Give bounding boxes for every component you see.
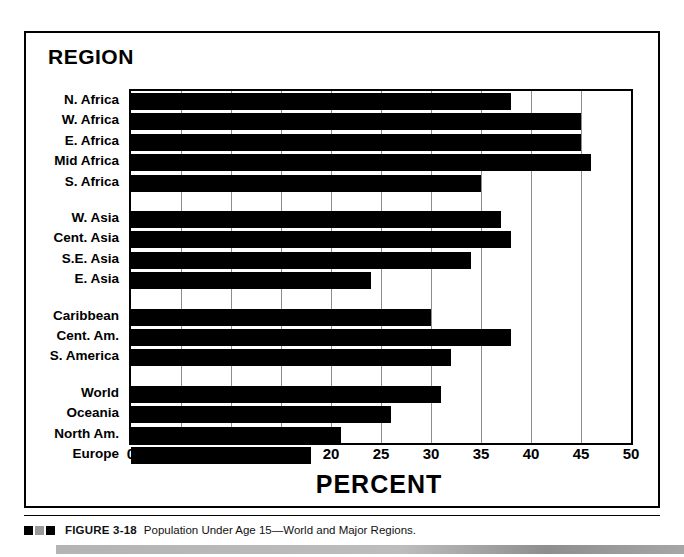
y-tick-europe: Europe xyxy=(72,445,119,462)
x-tick-15: 15 xyxy=(273,445,290,462)
x-tick-20: 20 xyxy=(323,445,340,462)
caption-square-marks-icon xyxy=(24,526,55,535)
y-tick-s-e-asia: S.E. Asia xyxy=(62,250,119,267)
bar-e-asia xyxy=(131,272,371,289)
bar-w-asia xyxy=(131,211,501,228)
figure-caption: FIGURE 3-18 Population Under Age 15—Worl… xyxy=(24,520,660,540)
x-tick-10: 10 xyxy=(223,445,240,462)
bar-s-africa xyxy=(131,175,481,192)
y-tick-w-asia: W. Asia xyxy=(71,209,119,226)
y-tick-world: World xyxy=(81,384,119,401)
x-tick-30: 30 xyxy=(423,445,440,462)
y-tick-s-america: S. America xyxy=(50,347,119,364)
y-tick-cent-am: Cent. Am. xyxy=(56,327,119,344)
bar-row xyxy=(131,386,631,403)
bar-n-africa xyxy=(131,93,511,110)
bar-s-america xyxy=(131,349,451,366)
x-tick-50: 50 xyxy=(623,445,640,462)
x-tick-35: 35 xyxy=(473,445,490,462)
bar-caribbean xyxy=(131,309,431,326)
bar-row xyxy=(131,231,631,248)
figure-frame: REGION N. AfricaW. AfricaE. AfricaMid Af… xyxy=(24,31,660,508)
bar-row xyxy=(131,427,631,444)
bar-s-e-asia xyxy=(131,252,471,269)
page-bottom-decoration xyxy=(56,545,684,554)
x-tick-45: 45 xyxy=(573,445,590,462)
x-tick-5: 5 xyxy=(177,445,185,462)
y-tick-n-africa: N. Africa xyxy=(64,91,119,108)
bar-row xyxy=(131,113,631,130)
chart-plot-wrapper: N. AfricaW. AfricaE. AfricaMid AfricaS. … xyxy=(26,33,662,510)
y-tick-north-am: North Am. xyxy=(54,425,119,442)
bar-world xyxy=(131,386,441,403)
y-tick-e-asia: E. Asia xyxy=(74,270,119,287)
y-tick-w-africa: W. Africa xyxy=(62,111,119,128)
y-tick-caribbean: Caribbean xyxy=(53,307,119,324)
bar-cent-am xyxy=(131,329,511,346)
x-tick-40: 40 xyxy=(523,445,540,462)
bar-e-africa xyxy=(131,134,581,151)
bar-cent-asia xyxy=(131,231,511,248)
caption-figure-number: FIGURE 3-18 xyxy=(65,524,137,536)
bar-row xyxy=(131,272,631,289)
bar-row xyxy=(131,309,631,326)
y-tick-s-africa: S. Africa xyxy=(65,173,119,190)
bar-row xyxy=(131,154,631,171)
bar-row xyxy=(131,252,631,269)
bar-row xyxy=(131,134,631,151)
bar-row xyxy=(131,349,631,366)
bar-row xyxy=(131,329,631,346)
bar-north-am xyxy=(131,427,341,444)
figure-page: REGION N. AfricaW. AfricaE. AfricaMid Af… xyxy=(0,0,684,557)
caption-divider xyxy=(24,515,660,516)
y-tick-mid-africa: Mid Africa xyxy=(54,152,119,169)
x-tick-0: 0 xyxy=(127,445,135,462)
caption-description: Population Under Age 15—World and Major … xyxy=(144,524,416,536)
bar-row xyxy=(131,406,631,423)
bar-w-africa xyxy=(131,113,581,130)
y-axis-labels: N. AfricaW. AfricaE. AfricaMid AfricaS. … xyxy=(26,89,125,441)
bar-row xyxy=(131,211,631,228)
x-axis-tick-labels: 05101520253035404550 xyxy=(129,445,633,471)
bar-rows xyxy=(131,91,631,443)
bar-row xyxy=(131,93,631,110)
bar-row xyxy=(131,175,631,192)
bar-oceania xyxy=(131,406,391,423)
y-tick-e-africa: E. Africa xyxy=(65,132,119,149)
x-tick-25: 25 xyxy=(373,445,390,462)
chart-plot-area xyxy=(129,89,633,445)
y-tick-cent-asia: Cent. Asia xyxy=(53,229,119,246)
x-axis-title: PERCENT xyxy=(129,470,629,499)
bar-mid-africa xyxy=(131,154,591,171)
y-tick-oceania: Oceania xyxy=(66,404,119,421)
